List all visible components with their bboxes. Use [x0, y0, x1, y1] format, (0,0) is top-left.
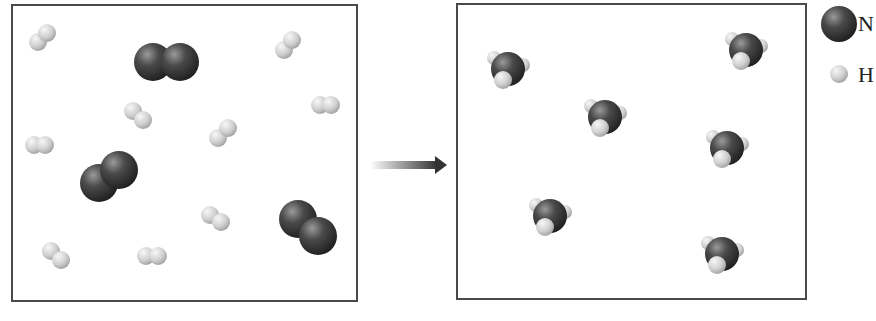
- nitrogen-atom-icon: [161, 43, 199, 81]
- h2-molecule: [124, 102, 152, 129]
- nh3-molecule: [529, 198, 572, 236]
- hydrogen-atom-icon: [52, 251, 70, 269]
- nitrogen-atom-icon: [100, 151, 138, 189]
- h2-molecule: [209, 119, 237, 147]
- hydrogen-atom-icon: [708, 256, 726, 274]
- n2-molecule: [134, 43, 199, 81]
- legend-label-nitrogen: N: [858, 13, 874, 35]
- hydrogen-atom-icon: [494, 71, 512, 89]
- hydrogen-atom-icon: [732, 52, 750, 70]
- n2-molecule: [279, 200, 337, 255]
- arrow-shaft: [370, 161, 437, 169]
- hydrogen-atom-icon: [134, 111, 152, 129]
- hydrogen-atom-icon: [536, 218, 554, 236]
- nh3-molecule: [487, 51, 530, 89]
- nh3-molecule: [706, 130, 749, 168]
- h2-molecule: [137, 247, 167, 265]
- n2-molecule: [80, 151, 138, 202]
- hydrogen-atom-icon: [283, 31, 301, 49]
- legend: [821, 6, 857, 83]
- hydrogen-atom-icon: [38, 24, 56, 42]
- reaction-arrow: [370, 156, 447, 174]
- h2-molecule: [29, 24, 56, 51]
- h2-molecule: [275, 31, 301, 59]
- h2-molecule: [201, 206, 230, 231]
- hydrogen-atom-icon: [591, 119, 609, 137]
- hydrogen-atom-icon: [149, 247, 167, 265]
- hydrogen-atom-icon: [219, 119, 237, 137]
- nitrogen-atom-icon: [299, 217, 337, 255]
- hydrogen-atom-icon: [322, 96, 340, 114]
- arrow-head-icon: [435, 156, 447, 174]
- hydrogen-atom-icon: [713, 150, 731, 168]
- legend-label-hydrogen: H: [858, 64, 874, 86]
- nh3-molecule: [725, 32, 768, 70]
- legend-nitrogen-icon: [821, 6, 857, 42]
- h2-molecule: [311, 96, 340, 114]
- h2-molecule: [42, 242, 70, 269]
- h2-molecule: [25, 136, 54, 154]
- legend-hydrogen-icon: [830, 65, 848, 83]
- nh3-molecule: [584, 99, 627, 137]
- hydrogen-atom-icon: [212, 213, 230, 231]
- hydrogen-atom-icon: [36, 136, 54, 154]
- nh3-molecule: [701, 236, 744, 274]
- reaction-diagram: [0, 0, 876, 321]
- molecules-layer: [25, 24, 768, 274]
